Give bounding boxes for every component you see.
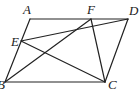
label-f: F bbox=[86, 2, 96, 17]
segments bbox=[5, 19, 128, 82]
label-c: C bbox=[108, 77, 117, 92]
label-e: E bbox=[10, 34, 19, 49]
label-d: D bbox=[128, 3, 139, 18]
segment-cd bbox=[105, 19, 128, 82]
label-a: A bbox=[22, 2, 31, 17]
geometry-diagram: AFDEBC bbox=[0, 0, 139, 96]
segment-fc bbox=[91, 19, 105, 82]
label-b: B bbox=[0, 77, 5, 92]
segment-ed bbox=[21, 19, 128, 41]
